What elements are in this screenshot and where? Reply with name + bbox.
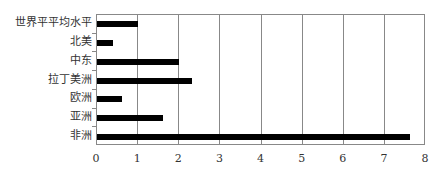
y-tick bbox=[92, 89, 96, 90]
gridline bbox=[384, 15, 385, 144]
x-tick-label: 1 bbox=[129, 152, 145, 165]
y-tick bbox=[92, 126, 96, 127]
category-label: 欧洲 bbox=[70, 92, 92, 104]
category-label: 非洲 bbox=[70, 130, 92, 142]
gridline bbox=[302, 15, 303, 144]
bar bbox=[97, 115, 163, 121]
bar bbox=[97, 40, 113, 46]
gridline bbox=[219, 15, 220, 144]
x-tick-label: 3 bbox=[211, 152, 227, 165]
category-label: 拉丁美洲 bbox=[48, 74, 92, 86]
category-label: 世界平平均水平 bbox=[15, 17, 92, 29]
x-tick-label: 0 bbox=[88, 152, 104, 165]
x-tick-label: 7 bbox=[376, 152, 392, 165]
category-label: 中东 bbox=[70, 55, 92, 67]
bar bbox=[97, 134, 410, 140]
category-label: 亚洲 bbox=[70, 111, 92, 123]
bar bbox=[97, 78, 192, 84]
x-tick-label: 8 bbox=[417, 152, 433, 165]
gridline bbox=[261, 15, 262, 144]
y-tick bbox=[92, 51, 96, 52]
x-tick-label: 4 bbox=[253, 152, 269, 165]
category-label: 北美 bbox=[70, 36, 92, 48]
x-tick-label: 5 bbox=[294, 152, 310, 165]
bar bbox=[97, 59, 179, 65]
bar bbox=[97, 21, 138, 27]
horizontal-bar-chart: 世界平平均水平北美中东拉丁美洲欧洲亚洲非洲 012345678 bbox=[0, 0, 442, 177]
gridline bbox=[343, 15, 344, 144]
plot-area bbox=[96, 14, 425, 145]
y-tick bbox=[92, 33, 96, 34]
x-tick-label: 6 bbox=[335, 152, 351, 165]
bar bbox=[97, 96, 122, 102]
x-tick-label: 2 bbox=[170, 152, 186, 165]
y-tick bbox=[92, 108, 96, 109]
y-tick bbox=[92, 70, 96, 71]
